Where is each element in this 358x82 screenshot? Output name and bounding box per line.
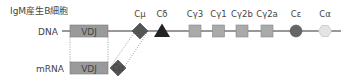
- c-epsilon-circle-icon: [290, 25, 302, 37]
- c-gamma2a-square-icon: [261, 25, 273, 37]
- c-mu-diamond-icon: [132, 23, 148, 39]
- mrna-c-mu-label: Cμ: [113, 64, 124, 73]
- dna-row-label: DNA: [38, 27, 59, 37]
- c-alpha-label: Cα: [319, 9, 331, 19]
- c-gamma3-square-icon: [189, 25, 201, 37]
- c-delta-triangle-icon: [154, 24, 170, 38]
- mrna-vdj-segment: VDJ: [70, 62, 108, 74]
- mrna-row-label: mRNA: [36, 64, 65, 74]
- c-gamma1-label: Cγ1: [210, 9, 226, 19]
- c-gamma3-label: Cγ3: [187, 9, 203, 19]
- dna-vdj-label: VDJ: [81, 27, 97, 37]
- c-epsilon-label: Cε: [291, 9, 302, 19]
- c-gamma2b-square-icon: [236, 25, 248, 37]
- c-delta-label: Cδ: [156, 9, 167, 19]
- dna-vdj-segment: VDJ: [70, 25, 108, 37]
- diagram-title: IgM産生B細胞: [10, 5, 68, 16]
- c-gamma1-square-icon: [213, 25, 225, 37]
- c-gamma2a-label: Cγ2a: [256, 9, 278, 19]
- c-mu-label: Cμ: [134, 9, 146, 19]
- mrna-vdj-label: VDJ: [81, 64, 97, 74]
- igm-b-cell-gene-diagram: IgM産生B細胞 DNA VDJ Cμ Cδ Cγ3 Cγ1 Cγ2b Cγ2a…: [0, 0, 358, 82]
- c-gamma2b-label: Cγ2b: [231, 9, 253, 19]
- c-alpha-hexagon-icon: [319, 26, 332, 37]
- mrna-c-mu-segment: Cμ: [110, 60, 126, 76]
- splice-dotted-lines: [70, 33, 147, 66]
